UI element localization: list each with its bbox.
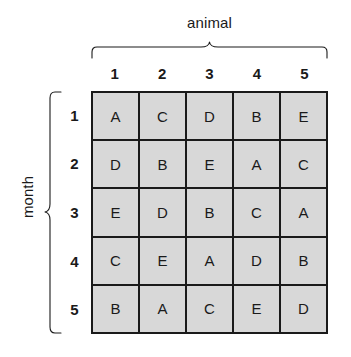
latin-square-grid: A C D B E D B E A C E D B C A C E A D B … [91,91,328,334]
column-header-4: 4 [233,62,280,86]
grid-cell: A [281,189,326,235]
grid-cell: A [234,141,279,187]
grid-cell: B [140,141,185,187]
grid-cell: B [234,93,279,139]
row-header-1: 1 [62,91,87,140]
grid-cell: E [140,238,185,284]
grid-cell: D [140,189,185,235]
grid-cell: D [187,93,232,139]
row-header-3: 3 [62,188,87,237]
column-header-1: 1 [91,62,138,86]
grid-cell: A [140,286,185,332]
grid-cell: E [187,141,232,187]
grid-cell: A [187,238,232,284]
curly-brace-horizontal-svg [91,41,328,59]
grid-cell: D [234,238,279,284]
grid-cell: B [281,238,326,284]
row-header-4: 4 [62,237,87,286]
column-header-2: 2 [138,62,185,86]
grid-cell: C [93,238,138,284]
row-headers: 1 2 3 4 5 [62,91,87,334]
grid-cell: C [140,93,185,139]
column-group-label: animal [91,14,328,32]
row-header-2: 2 [62,140,87,189]
grid-cell: E [234,286,279,332]
grid-cell: C [281,141,326,187]
grid-cell: C [234,189,279,235]
grid-cell: A [93,93,138,139]
column-header-3: 3 [186,62,233,86]
grid-cell: B [93,286,138,332]
column-headers: 1 2 3 4 5 [91,62,328,86]
curly-brace-vertical-icon [44,91,62,334]
grid-cell: E [281,93,326,139]
grid-cell: E [93,189,138,235]
grid-cell: D [281,286,326,332]
curly-brace-vertical-svg [44,91,62,334]
grid-cell: D [93,141,138,187]
curly-brace-horizontal-icon [91,41,328,59]
row-header-5: 5 [62,285,87,334]
grid-cell: C [187,286,232,332]
row-group-label: month [19,169,37,225]
latin-square-figure: animal 1 2 3 4 5 month 1 2 3 4 5 A C D B… [0,0,351,357]
grid-cell: B [187,189,232,235]
column-header-5: 5 [281,62,328,86]
